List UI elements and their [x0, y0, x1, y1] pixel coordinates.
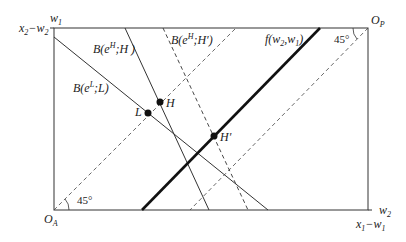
- point-L: [145, 110, 152, 117]
- label-point-H: H: [166, 97, 175, 109]
- angle-arc-top: [353, 28, 357, 39]
- ray-from-oa: [54, 28, 236, 210]
- label-BH: B(eH;H ): [93, 42, 135, 55]
- label-OP: OP: [371, 14, 385, 29]
- label-OA: OA: [44, 213, 58, 228]
- curve-f: [142, 28, 320, 210]
- label-point-L: L: [135, 106, 142, 118]
- ray-from-op: [190, 28, 368, 210]
- label-x1-w1: x1−w1: [356, 218, 385, 233]
- point-Hprime: [211, 133, 218, 140]
- label-BHprime: B(eH;H′): [171, 33, 213, 46]
- label-x2-w2: x2−w2: [19, 22, 48, 37]
- label-angle-top: 45°: [334, 34, 349, 45]
- curve-BL: [54, 37, 268, 210]
- angle-arc-bottom: [65, 199, 69, 210]
- point-H: [157, 99, 164, 106]
- label-point-Hprime: H′: [220, 131, 231, 143]
- label-BL: B(eL;L): [73, 81, 109, 94]
- label-f: f(w2,w1): [265, 33, 303, 48]
- curve-BHprime: [163, 28, 248, 210]
- label-w1: w1: [50, 12, 62, 27]
- label-angle-bottom: 45°: [77, 195, 92, 206]
